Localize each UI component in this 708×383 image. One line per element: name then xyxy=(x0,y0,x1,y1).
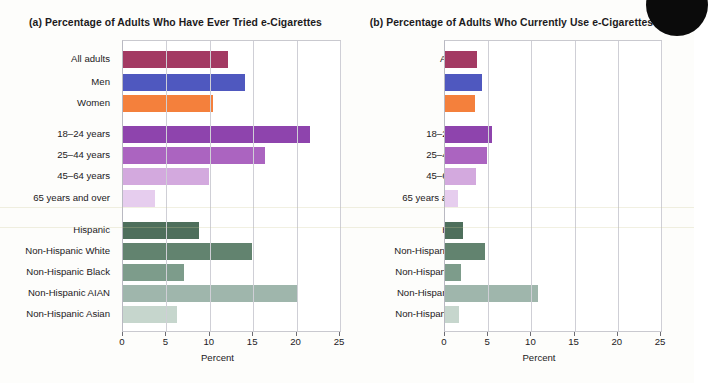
gridline-20 xyxy=(297,41,298,331)
panel-b-chart: All adultsMenWomen18–24 years25–44 years… xyxy=(347,40,694,332)
panel-b-x-axis: Percent 0510152025 xyxy=(444,332,662,372)
bar-fill xyxy=(445,306,459,323)
bar-men xyxy=(123,74,245,91)
bar-fill xyxy=(445,285,538,302)
bar-25-44-years xyxy=(445,147,487,164)
x-tick-label-15: 15 xyxy=(568,336,579,347)
category-label: 45–64 years xyxy=(57,167,110,184)
bar-non-hispanic-asian xyxy=(445,306,459,323)
bar-non-hispanic-black xyxy=(123,264,184,281)
bar-fill xyxy=(445,168,476,185)
category-label: Non-Hispanic Asian xyxy=(26,305,110,322)
bar-fill xyxy=(445,95,475,112)
bar-65-years-and-over xyxy=(445,190,458,207)
panel-b-plot-area xyxy=(444,40,662,332)
x-tick-label-25: 25 xyxy=(334,336,345,347)
bar-non-hispanic-asian xyxy=(123,306,177,323)
bar-fill xyxy=(445,264,461,281)
panel-a-x-axis: Percent 0510152025 xyxy=(122,332,341,372)
bar-25-44-years xyxy=(123,147,265,164)
gridline-10 xyxy=(531,41,532,331)
x-tick-label-10: 10 xyxy=(525,336,536,347)
bar-fill xyxy=(445,190,458,207)
bar-fill xyxy=(123,51,228,68)
panel-a-title: (a) Percentage of Adults Who Have Ever T… xyxy=(0,17,347,28)
bar-fill xyxy=(445,147,487,164)
bar-hispanic xyxy=(445,222,463,239)
x-tick-label-5: 5 xyxy=(485,336,490,347)
category-label: All adults xyxy=(71,50,110,67)
x-tick-label-10: 10 xyxy=(203,336,214,347)
category-label: 65 years and over xyxy=(33,189,110,206)
panel-a-chart: All adultsMenWomen18–24 years25–44 years… xyxy=(0,40,347,332)
category-label: Non-Hispanic AIAN xyxy=(28,284,110,301)
bar-18-24-years xyxy=(445,126,492,143)
x-tick-label-0: 0 xyxy=(441,336,446,347)
x-tick-label-5: 5 xyxy=(163,336,168,347)
panel-a-axis-title: Percent xyxy=(122,352,341,363)
gridline-5 xyxy=(488,41,489,331)
category-label: Non-Hispanic White xyxy=(25,242,110,259)
gridline-25 xyxy=(661,41,662,331)
bar-fill xyxy=(445,51,477,68)
bar-fill xyxy=(123,243,252,260)
x-tick-label-20: 20 xyxy=(611,336,622,347)
x-tick-label-20: 20 xyxy=(290,336,301,347)
category-label: Women xyxy=(77,94,110,111)
bar-fill xyxy=(123,264,184,281)
panel-a-plot-area xyxy=(122,40,341,332)
bar-women xyxy=(445,95,475,112)
panel-b: (b) Percentage of Adults Who Currently U… xyxy=(347,0,694,383)
panel-b-title: (b) Percentage of Adults Who Currently U… xyxy=(347,17,694,28)
bar-men xyxy=(445,74,482,91)
bar-18-24-years xyxy=(123,126,310,143)
x-tick-label-0: 0 xyxy=(119,336,124,347)
bar-fill xyxy=(445,74,482,91)
gridline-15 xyxy=(575,41,576,331)
bar-non-hispanic-aian xyxy=(445,285,538,302)
panel-b-bars xyxy=(445,41,661,331)
bar-all-adults xyxy=(445,51,477,68)
x-tick-label-25: 25 xyxy=(655,336,666,347)
bar-fill xyxy=(445,126,492,143)
bar-fill xyxy=(123,306,177,323)
bar-fill xyxy=(123,74,245,91)
panel-a: (a) Percentage of Adults Who Have Ever T… xyxy=(0,0,347,383)
bar-fill xyxy=(445,222,463,239)
bar-fill xyxy=(123,147,265,164)
bar-non-hispanic-white xyxy=(445,243,485,260)
category-label: 25–44 years xyxy=(57,146,110,163)
bar-65-years-and-over xyxy=(123,190,155,207)
bar-women xyxy=(123,95,213,112)
bar-non-hispanic-white xyxy=(123,243,252,260)
gridline-20 xyxy=(618,41,619,331)
category-label: Hispanic xyxy=(73,221,110,238)
bar-fill xyxy=(123,126,310,143)
category-label: 18–24 years xyxy=(57,125,110,142)
panel-a-bars xyxy=(123,41,340,331)
gridline-15 xyxy=(253,41,254,331)
gridline-10 xyxy=(210,41,211,331)
bar-fill xyxy=(123,95,213,112)
bar-fill xyxy=(445,243,485,260)
category-label: Men xyxy=(91,73,110,90)
panel-b-axis-title: Percent xyxy=(444,352,662,363)
bar-non-hispanic-black xyxy=(445,264,461,281)
gridline-25 xyxy=(340,41,341,331)
bar-fill xyxy=(123,190,155,207)
bar-45-64-years xyxy=(445,168,476,185)
gridline-5 xyxy=(166,41,167,331)
category-label: Non-Hispanic Black xyxy=(26,263,110,280)
panel-a-category-labels: All adultsMenWomen18–24 years25–44 years… xyxy=(4,40,116,332)
bar-fill xyxy=(123,222,199,239)
x-tick-label-15: 15 xyxy=(247,336,258,347)
bar-all-adults xyxy=(123,51,228,68)
bar-hispanic xyxy=(123,222,199,239)
